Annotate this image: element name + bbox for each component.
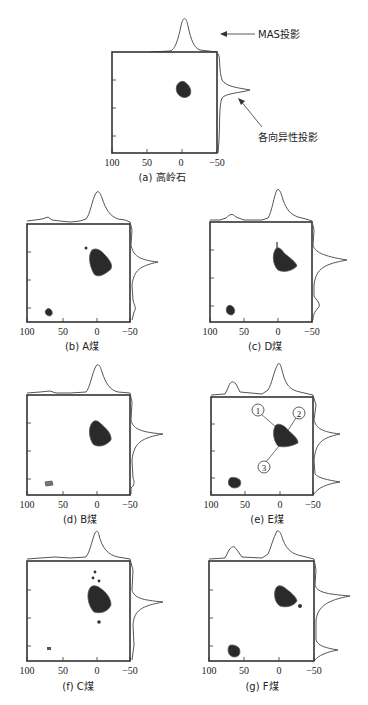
arrow-head-icon <box>220 31 227 37</box>
x-tick-label: 0 <box>276 326 281 337</box>
anisotropic-arrow-line <box>240 100 262 127</box>
panel-caption: (d) B煤 <box>63 513 97 525</box>
anisotropic-projection-label: 各向异性投影 <box>258 131 318 143</box>
secondary-peak-contour <box>45 481 53 486</box>
x-tick-label: 50 <box>58 499 68 510</box>
minor-peak <box>98 580 101 583</box>
mas-projection-curve <box>27 365 130 393</box>
x-tick-label: 100 <box>203 326 218 337</box>
mas-projection-curve <box>150 19 217 53</box>
minor-peak <box>97 620 101 624</box>
anisotropic-projection-curve <box>312 221 347 320</box>
anisotropic-projection-curve <box>313 395 340 494</box>
x-tick-label: −50 <box>122 326 138 337</box>
x-tick-label: 100 <box>20 326 35 337</box>
anisotropic-projection-curve <box>130 222 158 320</box>
panel-c: 100 50 0 −50 (c) D煤 <box>203 189 348 352</box>
panel-caption: (f) C煤 <box>62 680 93 692</box>
secondary-peak-contour <box>228 645 240 657</box>
panel-caption: (b) A煤 <box>65 340 99 352</box>
mas-projection-curve <box>209 531 314 559</box>
plot-frame <box>210 222 312 322</box>
x-tick-label: −50 <box>306 665 322 676</box>
x-tick-label: 0 <box>179 157 184 168</box>
anisotropic-projection-curve <box>217 52 250 153</box>
x-tick-label: 50 <box>142 157 152 168</box>
arrow-head-icon <box>238 98 245 105</box>
x-tick-label: 100 <box>204 499 219 510</box>
x-tick-label: 100 <box>202 665 217 676</box>
minor-peak <box>298 604 302 608</box>
x-tick-label: 0 <box>95 326 100 337</box>
panel-d: 100 50 0 −50 (d) B煤 <box>20 365 164 525</box>
figure-canvas: 100 50 0 −50 (a) 高岭石 MAS投影 各向异性投影 100 50… <box>0 0 368 705</box>
x-tick-label: 0 <box>95 499 100 510</box>
panel-g: 100 50 0 −50 (g) F煤 <box>202 531 351 692</box>
minor-peak <box>85 247 88 250</box>
secondary-peak-contour <box>228 477 240 488</box>
mas-projection-curve <box>27 531 130 559</box>
panel-f: 100 50 0 −50 (f) C煤 <box>20 531 164 692</box>
secondary-peak-contour <box>47 647 51 650</box>
minor-peak <box>94 571 97 574</box>
x-tick-label: −50 <box>209 157 225 168</box>
panel-caption: (e) E煤 <box>250 513 283 525</box>
marker-2-label: 2 <box>297 409 302 419</box>
secondary-peak-contour <box>226 305 234 315</box>
x-tick-label: 100 <box>20 665 35 676</box>
plot-frame <box>27 561 130 661</box>
x-tick-label: 50 <box>58 326 68 337</box>
marker-1-label: 1 <box>256 406 261 416</box>
x-tick-label: −50 <box>122 665 138 676</box>
secondary-peak-contour <box>45 309 52 316</box>
x-tick-label: 50 <box>58 665 68 676</box>
panel-e: 1 2 3 100 50 0 −50 (e) E煤 <box>204 363 341 525</box>
anisotropic-projection-curve <box>314 559 350 660</box>
plot-frame <box>112 52 217 153</box>
marker-3-label: 3 <box>262 463 267 473</box>
mas-projection-curve <box>27 192 130 222</box>
mas-projection-label: MAS投影 <box>258 28 300 40</box>
anisotropic-projection-curve <box>130 559 163 660</box>
x-tick-label: 50 <box>239 326 249 337</box>
panel-caption: (c) D煤 <box>248 340 282 352</box>
x-tick-label: −50 <box>122 499 138 510</box>
x-tick-label: 0 <box>277 665 282 676</box>
panel-caption: (a) 高岭石 <box>138 171 185 183</box>
x-tick-label: 0 <box>278 499 283 510</box>
x-tick-label: −50 <box>305 499 321 510</box>
x-tick-label: −50 <box>304 326 320 337</box>
plot-frame <box>209 561 314 661</box>
panel-caption: (g) F煤 <box>245 680 278 692</box>
minor-peak <box>92 577 95 580</box>
plot-frame <box>27 395 130 495</box>
x-tick-label: 100 <box>105 157 120 168</box>
mas-projection-curve <box>210 189 312 221</box>
anisotropic-projection-curve <box>130 393 163 494</box>
x-tick-label: 50 <box>240 499 250 510</box>
panel-a: 100 50 0 −50 (a) 高岭石 MAS投影 各向异性投影 <box>105 19 319 184</box>
mas-projection-curve <box>211 363 313 395</box>
plot-frame <box>27 224 130 322</box>
x-tick-label: 50 <box>239 665 249 676</box>
x-tick-label: 100 <box>20 499 35 510</box>
x-tick-label: 0 <box>95 665 100 676</box>
panel-b: 100 50 0 −50 (b) A煤 <box>20 192 159 352</box>
